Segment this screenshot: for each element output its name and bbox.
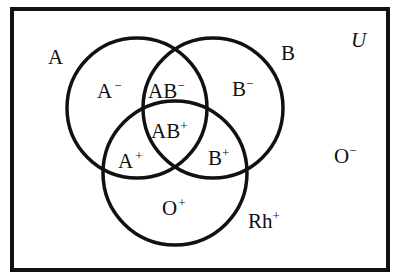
set-rh-label: Rh+ bbox=[248, 208, 280, 233]
region-a-negative-label: A− bbox=[97, 78, 122, 103]
region-a-positive-label: A+ bbox=[118, 148, 143, 173]
region-o-negative-label: O− bbox=[334, 143, 357, 168]
region-b-negative-label: B− bbox=[232, 76, 253, 101]
set-a-label: A bbox=[48, 45, 64, 69]
region-ab-negative-label: AB− bbox=[148, 78, 185, 103]
region-o-positive-label: O+ bbox=[162, 195, 186, 220]
region-b-positive-label: B+ bbox=[208, 145, 229, 170]
universe-label: U bbox=[351, 28, 368, 52]
venn-diagram: A B Rh+ U A− AB− B− AB+ A+ B+ O+ O− bbox=[0, 0, 394, 274]
region-ab-positive-label: AB+ bbox=[151, 118, 188, 143]
set-b-label: B bbox=[281, 41, 295, 65]
